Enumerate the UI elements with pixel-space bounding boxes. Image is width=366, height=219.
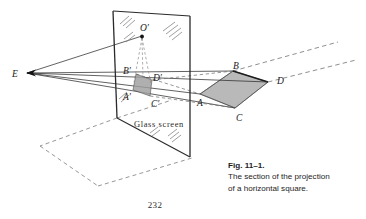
square-fill [200,71,268,108]
caption-title: Fig. 11–1. [228,160,364,171]
label-B: B [233,61,239,71]
ground-line-right [98,158,192,186]
figure-page: E O′ B′ D′ A′ C′ B D A C Glass screen Fi… [0,0,366,219]
caption-line-2: of a horizontal square. [228,183,364,194]
label-E: E [11,69,18,79]
figure-caption: Fig. 11–1. The section of the projection… [228,160,364,194]
ground-line-left [40,118,117,146]
label-O-prime: O′ [140,23,150,33]
label-C-prime: C′ [151,99,160,109]
label-D-prime: D′ [152,73,163,83]
ground-line-front [40,146,98,186]
horizontal-square [200,71,268,108]
vanishing-dashes [233,42,356,82]
caption-line-1: The section of the projection [228,171,364,182]
label-D: D [276,76,284,86]
page-number: 232 [0,200,310,210]
glass-screen-label: Glass screen [134,119,184,129]
label-A: A [196,98,203,108]
label-C: C [236,113,243,123]
label-B-prime: B′ [123,66,132,76]
label-A-prime: A′ [122,92,132,102]
vanish-line-upper [233,42,338,71]
o-prime-point [140,35,144,39]
